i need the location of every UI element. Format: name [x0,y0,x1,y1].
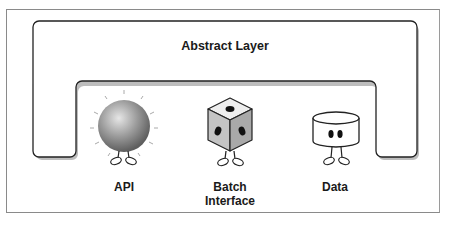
batch-interface-label: Batch Interface [195,180,265,208]
abstract-layer-title: Abstract Layer [0,39,450,53]
sphere-character-icon [88,88,160,166]
batch-interface-label-line1: Batch [195,180,265,194]
batch-interface-label-line2: Interface [195,194,265,208]
cylinder-character-icon [310,108,362,170]
dice-character-icon [203,96,257,168]
data-label: Data [315,180,355,194]
api-label: API [104,180,144,194]
